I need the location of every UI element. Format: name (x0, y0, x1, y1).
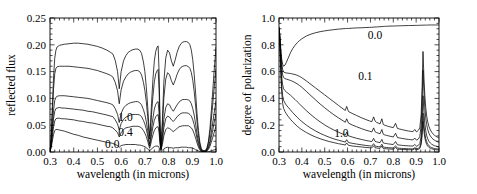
ytick-label: 0.15 (27, 65, 47, 77)
xtick-label: 0.9 (409, 155, 423, 167)
xtick-label: 1.0 (432, 155, 446, 167)
curves-group (50, 42, 216, 152)
figure-container: 0.30.40.50.60.70.80.91.00.000.050.100.15… (0, 0, 477, 194)
ytick-label: 0.4 (261, 92, 275, 104)
xtick-label: 0.7 (364, 155, 378, 167)
degree-of-polarization-plot: 0.30.40.50.60.70.80.91.00.00.20.40.60.81… (238, 0, 477, 194)
ytick-label: 0.25 (27, 12, 47, 24)
curve-albedo-0-0 (279, 25, 439, 66)
ytick-label: 0.2 (261, 119, 275, 131)
curve-annotation: 0.0 (105, 138, 120, 150)
ytick-label: 1.0 (261, 12, 275, 24)
xtick-label: 0.5 (91, 155, 105, 167)
curve-albedo-0-2 (50, 118, 216, 152)
curve-albedo-0-1 (279, 27, 439, 138)
curve-albedo-0-7 (279, 30, 439, 149)
curve-albedo-0-8 (50, 66, 216, 151)
xtick-label: 0.4 (67, 155, 81, 167)
reflected-flux-plot: 0.30.40.50.60.70.80.91.00.000.050.100.15… (0, 0, 238, 194)
xtick-label: 0.9 (185, 155, 199, 167)
curve-annotation: 0.4 (118, 126, 133, 138)
x-axis-label: wavelength (in microns) (77, 168, 190, 181)
panel-reflected-flux: 0.30.40.50.60.70.80.91.00.000.050.100.15… (0, 0, 238, 194)
panel-degree-of-polarization: 0.30.40.50.60.70.80.91.00.00.20.40.60.81… (238, 0, 477, 194)
ytick-label: 0.6 (261, 65, 275, 77)
y-axis-label: degree of polarization (241, 34, 254, 135)
xtick-label: 0.6 (114, 155, 128, 167)
y-axis-label: reflected flux (5, 54, 17, 116)
curve-annotation: 0.1 (358, 70, 373, 82)
curve-albedo-0-4 (50, 96, 216, 152)
xtick-label: 0.6 (341, 155, 355, 167)
xtick-label: 1.0 (209, 155, 223, 167)
ytick-label: 0.0 (261, 146, 275, 158)
curve-albedo-0-0 (50, 129, 216, 152)
xtick-label: 0.4 (295, 155, 309, 167)
ytick-label: 0.05 (27, 119, 47, 131)
ytick-label: 0.20 (27, 39, 47, 51)
xtick-label: 0.7 (138, 155, 152, 167)
xtick-label: 0.8 (162, 155, 176, 167)
ytick-label: 0.00 (27, 146, 47, 158)
xtick-label: 0.5 (318, 155, 332, 167)
ytick-label: 0.8 (261, 39, 275, 51)
curve-albedo-1-0 (279, 31, 439, 150)
curve-annotation: 1.0 (118, 111, 133, 123)
plot-frame (50, 18, 216, 152)
curve-annotation: 1.0 (334, 127, 349, 139)
curve-albedo-0-2 (279, 28, 439, 142)
xtick-label: 0.8 (386, 155, 400, 167)
x-axis-label: wavelength (in microns) (303, 168, 416, 181)
curve-annotation: 0.0 (368, 29, 383, 41)
ytick-label: 0.10 (27, 92, 47, 104)
curves-group (279, 25, 439, 150)
